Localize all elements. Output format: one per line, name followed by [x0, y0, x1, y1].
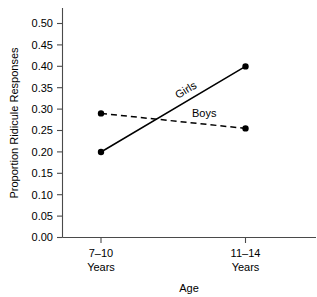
y-tick-label: 0.05	[32, 210, 53, 222]
series-girls-line	[101, 66, 246, 152]
series-label-girls: Girls	[173, 79, 199, 101]
y-tick-label: 0.45	[32, 39, 53, 51]
y-tick-label: 0.20	[32, 146, 53, 158]
series-girls-point	[98, 149, 104, 155]
x-tick-label-age-group-1-unit: Years	[87, 261, 115, 273]
x-axis-title: Age	[179, 282, 199, 294]
y-axis-title: Proportion Ridicule Responses	[8, 47, 20, 199]
y-tick-label: 0.25	[32, 124, 53, 136]
y-tick-label: 0.15	[32, 167, 53, 179]
series-boys-line	[101, 113, 246, 128]
y-tick-label: 0.40	[32, 60, 53, 72]
series-girls: Girls	[98, 63, 249, 155]
x-axis-ticks	[101, 238, 246, 244]
series-boys-point	[242, 125, 248, 131]
series-label-boys: Boys	[192, 107, 217, 119]
y-tick-label: 0.10	[32, 189, 53, 201]
y-tick-label: 0.30	[32, 103, 53, 115]
line-chart: 0.00 0.05 0.10 0.15 0.20 0.25 0.30 0.35 …	[0, 0, 317, 297]
x-tick-label-age-group-2-range: 11–14	[231, 247, 261, 259]
y-axis-ticks	[57, 24, 63, 238]
x-tick-label-age-group-1-range: 7–10	[89, 247, 113, 259]
y-tick-label: 0.00	[32, 231, 53, 243]
series-boys-point	[98, 110, 104, 116]
y-axis-tick-labels: 0.00 0.05 0.10 0.15 0.20 0.25 0.30 0.35 …	[32, 17, 53, 243]
series-girls-point	[242, 63, 248, 69]
x-axis-category-labels: 7–10 Years 11–14 Years	[87, 247, 260, 273]
chart-figure: 0.00 0.05 0.10 0.15 0.20 0.25 0.30 0.35 …	[0, 0, 317, 297]
y-tick-label: 0.50	[32, 17, 53, 29]
x-tick-label-age-group-2-unit: Years	[232, 261, 260, 273]
series-boys: Boys	[98, 107, 249, 132]
y-tick-label: 0.35	[32, 82, 53, 94]
